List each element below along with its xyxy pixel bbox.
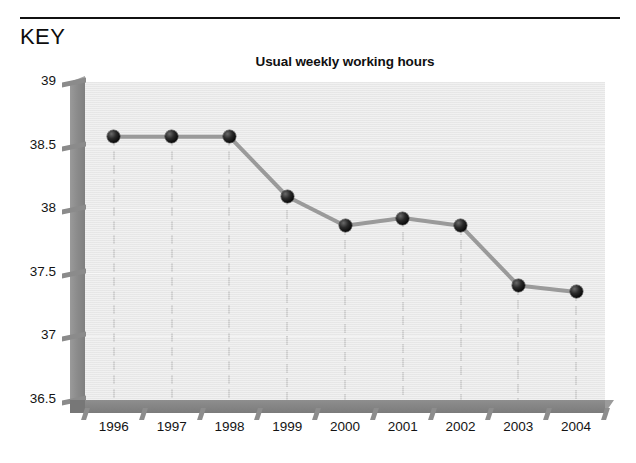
data-point-marker: [281, 190, 294, 203]
chart-title: Usual weekly working hours: [85, 54, 605, 69]
y-axis-tick-label: 38: [0, 200, 56, 215]
data-point-marker: [570, 285, 583, 298]
vertical-gridline: [113, 137, 115, 400]
vertical-gridline: [575, 292, 577, 400]
x-axis-tick-label: 1998: [199, 419, 259, 434]
data-point-marker: [512, 279, 525, 292]
vertical-gridline: [460, 226, 462, 400]
line-chart: Usual weekly working hours 3938.53837.53…: [0, 0, 636, 463]
data-point-marker: [339, 219, 352, 232]
data-point-marker: [396, 212, 409, 225]
vertical-gridline: [228, 137, 230, 400]
x-axis-tick-label: 1999: [257, 419, 317, 434]
x-axis-tick-label: 2002: [431, 419, 491, 434]
x-axis: [85, 400, 605, 413]
vertical-gridline: [171, 137, 173, 400]
y-axis-tick-label: 39: [0, 73, 56, 88]
vertical-gridline: [517, 286, 519, 400]
x-axis-tick-label: 1997: [142, 419, 202, 434]
y-axis-tick-label: 38.5: [0, 137, 56, 152]
y-axis-tick-label: 36.5: [0, 391, 56, 406]
y-axis-tick-label: 37: [0, 327, 56, 342]
y-axis: [70, 82, 85, 400]
x-axis-tick-label: 2004: [546, 419, 606, 434]
vertical-gridline: [344, 226, 346, 400]
x-axis-tick-label: 2003: [488, 419, 548, 434]
x-axis-tick-label: 2000: [315, 419, 375, 434]
plot-area: [85, 82, 605, 400]
vertical-gridline: [286, 196, 288, 400]
x-axis-tick-label: 2001: [373, 419, 433, 434]
vertical-gridline: [402, 218, 404, 400]
x-axis-tick-label: 1996: [84, 419, 144, 434]
horizontal-gridline: [85, 146, 605, 147]
y-axis-tick-label: 37.5: [0, 264, 56, 279]
horizontal-gridline: [85, 209, 605, 210]
